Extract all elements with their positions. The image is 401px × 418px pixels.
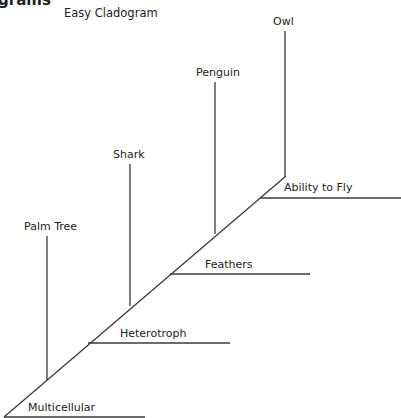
cladogram-lines [0, 0, 401, 418]
character-label-feathers: Feathers [205, 258, 253, 271]
character-label-heterotroph: Heterotroph [120, 327, 186, 340]
taxon-label-owl: Owl [273, 15, 294, 28]
taxon-label-shark: Shark [113, 148, 145, 161]
taxon-label-palm-tree: Palm Tree [24, 220, 77, 233]
taxon-label-penguin: Penguin [196, 66, 240, 79]
cladogram-trunk [4, 176, 286, 417]
character-label-multicellular: Multicellular [28, 401, 95, 414]
character-label-ability-to-fly: Ability to Fly [284, 181, 352, 194]
